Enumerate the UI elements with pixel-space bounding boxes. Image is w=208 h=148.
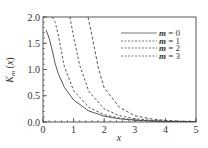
x-axis-label: x [116,132,122,143]
x-tick-label: 3 [132,124,137,135]
x-tick-label: 2 [102,124,107,135]
x-tick-label: 1 [71,124,76,135]
x-tick-label: 5 [194,124,199,135]
y-axis-label: Km (x) [4,57,17,83]
y-tick-label: 2.0 [28,12,41,23]
x-tick-label: 4 [163,124,168,135]
y-tick-label: 1.0 [28,64,41,75]
legend: m = 0m = 1m = 2m = 3 [121,28,181,61]
y-tick-label: 1.5 [28,38,41,49]
y-tick-label: 0.5 [28,90,41,101]
legend-label: m = 3 [159,51,181,61]
svg-text:Km (x): Km (x) [4,57,17,83]
bessel-k-chart: 0123450.00.51.01.52.0 m = 0m = 1m = 2m =… [0,0,208,148]
y-tick-label: 0.0 [28,117,41,128]
x-tick-label: 0 [41,124,46,135]
